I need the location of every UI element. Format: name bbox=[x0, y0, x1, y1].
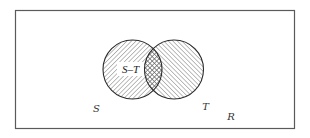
s-minus-t-label: S–T bbox=[122, 63, 140, 75]
set-s-label: S bbox=[93, 103, 100, 114]
venn-diagram: S–T S T R bbox=[0, 0, 310, 138]
universe-r-label: R bbox=[226, 111, 235, 122]
